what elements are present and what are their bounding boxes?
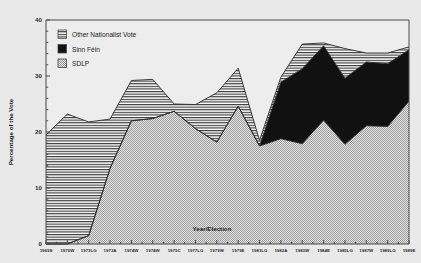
- chart-figure: 010203040 1969S1970W1973LG1973A1974W1974…: [0, 0, 421, 263]
- vote-share-area-chart: 010203040 1969S1970W1973LG1973A1974W1974…: [0, 0, 421, 263]
- x-tick-label: 1989LG: [380, 248, 396, 253]
- x-tick-label: 1984E: [317, 248, 330, 253]
- legend-label: Sinn Féin: [72, 46, 100, 53]
- x-tick-label: 1985LG: [337, 248, 353, 253]
- x-axis-title: Year/Election: [193, 225, 232, 232]
- x-tick-label: 1973A: [104, 248, 118, 253]
- legend-label: SDLP: [72, 60, 90, 67]
- y-axis-title: Percentage of the Vote: [7, 98, 14, 165]
- legend-swatch-dots: [58, 59, 67, 68]
- x-tick-label: 1983W: [295, 248, 310, 253]
- y-tick-label: 20: [35, 128, 42, 135]
- x-tick-label: 1974W: [146, 248, 161, 253]
- y-tick-label: 30: [35, 72, 42, 79]
- y-tick-label: 10: [35, 184, 42, 191]
- legend-label: Other Nationalist Vote: [72, 31, 136, 38]
- x-tick-label: 1977LG: [188, 248, 204, 253]
- x-tick-label: 1974W: [124, 248, 139, 253]
- x-tick-label: 1979E: [232, 248, 245, 253]
- x-tick-label: 1975C: [168, 248, 182, 253]
- x-tick-label: 1989E: [403, 248, 416, 253]
- x-tick-label: 1979W: [210, 248, 225, 253]
- x-tick-label: 1973LG: [81, 248, 97, 253]
- x-tick-label: 1981LG: [252, 248, 268, 253]
- y-tick-label: 40: [35, 16, 42, 23]
- x-tick-label: 1982A: [274, 248, 288, 253]
- legend-swatch-hlines: [58, 30, 67, 39]
- x-tick-label: 1987W: [359, 248, 374, 253]
- y-tick-label: 0: [39, 240, 43, 247]
- x-tick-label: 1969S: [40, 248, 53, 253]
- legend-swatch-solid: [58, 45, 67, 54]
- x-tick-label: 1970W: [60, 248, 75, 253]
